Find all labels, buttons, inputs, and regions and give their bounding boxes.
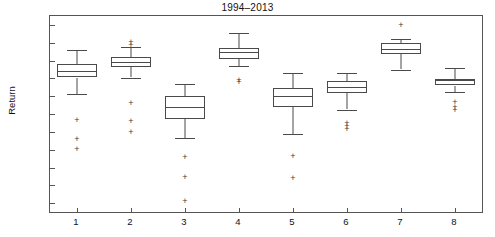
median-line [381, 49, 421, 50]
lower-whisker-line [401, 54, 402, 69]
box-plot-group [266, 16, 320, 212]
box-plot-group [374, 16, 428, 212]
upper-whisker-line [455, 68, 456, 80]
plot-inner: 4%6%8%10%12%14%16%18%20%22%24% [50, 16, 482, 212]
lower-whisker-cap [391, 70, 411, 71]
upper-whisker-line [347, 73, 348, 81]
box-plot-group [104, 16, 158, 212]
outlier-marker [182, 153, 189, 160]
x-axis-tick-label: 6 [334, 216, 358, 227]
median-line [435, 80, 475, 81]
upper-whisker-line [293, 73, 294, 88]
outlier-marker [74, 135, 81, 142]
outlier-marker [236, 78, 243, 85]
x-axis-tick-label: 2 [118, 216, 142, 227]
outlier-marker [74, 145, 81, 152]
upper-whisker-cap [283, 73, 303, 74]
outlier-marker [290, 175, 297, 182]
outlier-marker [128, 100, 135, 107]
upper-whisker-cap [445, 68, 465, 69]
lower-whisker-line [347, 93, 348, 110]
y-axis-title: Return [6, 71, 17, 131]
median-line [327, 87, 367, 88]
x-axis-tick-label: 8 [442, 216, 466, 227]
lower-whisker-line [77, 78, 78, 95]
outlier-marker [182, 174, 189, 181]
x-axis-tick-label: 1 [64, 216, 88, 227]
lower-whisker-cap [283, 134, 303, 135]
chart-title: 1994–2013 [0, 2, 495, 13]
x-axis-tick-label: 4 [226, 216, 250, 227]
lower-whisker-line [185, 119, 186, 138]
upper-whisker-cap [229, 33, 249, 34]
outlier-marker [128, 41, 135, 48]
median-line [165, 107, 205, 108]
lower-whisker-cap [121, 78, 141, 79]
outlier-marker [74, 117, 81, 124]
upper-whisker-line [77, 50, 78, 64]
upper-whisker-cap [67, 50, 87, 51]
lower-whisker-line [131, 67, 132, 78]
x-axis-tick-label: 3 [172, 216, 196, 227]
lower-whisker-cap [67, 94, 87, 95]
lower-whisker-cap [175, 138, 195, 139]
upper-whisker-cap [337, 73, 357, 74]
lower-whisker-cap [229, 66, 249, 67]
box-plot-group [428, 16, 482, 212]
median-line [57, 71, 97, 72]
median-line [219, 52, 259, 53]
iqr-box [219, 48, 259, 59]
box-plot-group [50, 16, 104, 212]
upper-whisker-cap [391, 39, 411, 40]
median-line [111, 62, 151, 63]
lower-whisker-line [239, 59, 240, 66]
outlier-marker [128, 118, 135, 125]
lower-whisker-cap [337, 110, 357, 111]
outlier-marker [290, 152, 297, 159]
outlier-marker [452, 106, 459, 113]
outlier-marker [182, 198, 189, 205]
x-axis-tick-label: 7 [388, 216, 412, 227]
upper-whisker-line [239, 33, 240, 48]
upper-whisker-line [185, 84, 186, 97]
x-axis-tick-label: 5 [280, 216, 304, 227]
box-plot-group [158, 16, 212, 212]
outlier-marker [344, 126, 351, 133]
outlier-marker [128, 128, 135, 135]
upper-whisker-cap [175, 84, 195, 85]
median-line [273, 96, 313, 97]
box-plot-group [212, 16, 266, 212]
box-plot-group [320, 16, 374, 212]
lower-whisker-line [293, 107, 294, 134]
boxplot-figure: 1994–2013 Return 4%6%8%10%12%14%16%18%20… [0, 0, 495, 237]
lower-whisker-cap [445, 92, 465, 93]
iqr-box [273, 88, 313, 107]
outlier-marker [398, 21, 405, 28]
plot-area: 4%6%8%10%12%14%16%18%20%22%24% [49, 15, 483, 213]
